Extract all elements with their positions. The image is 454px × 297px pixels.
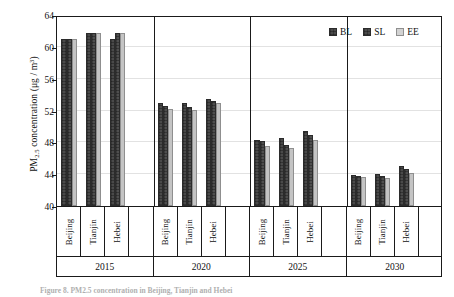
bar-sl-beijing-2030	[356, 176, 361, 206]
group-separator	[347, 17, 348, 206]
category-label: Hebei	[305, 221, 315, 243]
legend-swatch-bl-icon	[329, 28, 337, 36]
bar-sl-beijing-2020	[163, 106, 168, 206]
bar-ee-tianjin-2015	[96, 33, 101, 206]
category-cell-beijing-2020: Beijing	[154, 207, 178, 256]
legend-swatch-sl-icon	[363, 28, 371, 36]
group-separator	[250, 17, 251, 206]
category-cell-spacer	[129, 207, 153, 256]
category-cell-spacer	[419, 207, 443, 256]
y-axis-tick-label: 44	[0, 170, 54, 180]
category-label: Tianjin	[184, 219, 194, 245]
legend-label: EE	[407, 27, 419, 37]
legend-swatch-ee-icon	[396, 28, 404, 36]
bar-sl-hebei-2030	[404, 169, 409, 206]
bar-bl-tianjin-2020	[182, 103, 187, 206]
bar-sl-hebei-2025	[308, 135, 313, 206]
bar-sl-hebei-2015	[115, 33, 120, 206]
category-cell-spacer	[322, 207, 346, 256]
plot-area: BLSLEE	[56, 16, 442, 207]
y-axis-tick-label: 48	[0, 138, 54, 148]
category-cell-hebei-2020: Hebei	[202, 207, 226, 256]
year-label-2020: 2020	[154, 257, 251, 276]
bar-ee-beijing-2020	[168, 109, 173, 206]
legend-item-ee: EE	[396, 27, 419, 37]
bar-ee-tianjin-2020	[192, 110, 197, 206]
y-axis-title-close: )	[29, 56, 39, 59]
category-axis-band: BeijingTianjinHebeiBeijingTianjinHebeiBe…	[56, 207, 442, 257]
figure-caption: Figure 8. PM2.5 concentration in Beijing…	[40, 286, 414, 295]
category-label: Beijing	[353, 218, 363, 245]
bar-bl-tianjin-2015	[86, 33, 91, 206]
legend: BLSLEE	[329, 27, 419, 37]
bar-ee-beijing-2030	[361, 177, 366, 206]
category-cell-tianjin-2015: Tianjin	[81, 207, 105, 256]
bar-bl-tianjin-2030	[375, 174, 380, 206]
legend-label: SL	[374, 27, 385, 37]
category-cell-hebei-2025: Hebei	[298, 207, 322, 256]
y-axis-tick-label: 60	[0, 43, 54, 53]
y-axis-tick-label: 40	[0, 202, 54, 212]
legend-item-sl: SL	[363, 27, 385, 37]
bar-sl-tianjin-2025	[284, 145, 289, 206]
category-label: Tianjin	[281, 219, 291, 245]
y-axis-title-superscript: 3	[28, 59, 35, 62]
bar-sl-beijing-2015	[67, 39, 72, 206]
bar-ee-beijing-2015	[72, 39, 77, 206]
bar-sl-hebei-2020	[211, 101, 216, 206]
legend-item-bl: BL	[329, 27, 352, 37]
y-axis-tick-label: 64	[0, 11, 54, 21]
bar-bl-hebei-2015	[110, 39, 115, 206]
year-axis-band: 2015202020252030	[56, 257, 442, 277]
category-label: Hebei	[112, 221, 122, 243]
bar-bl-beijing-2025	[254, 140, 259, 206]
bar-ee-hebei-2030	[409, 173, 414, 206]
bar-bl-hebei-2020	[206, 99, 211, 206]
bar-ee-tianjin-2025	[289, 148, 294, 206]
category-cell-tianjin-2025: Tianjin	[274, 207, 298, 256]
bar-sl-beijing-2025	[260, 141, 265, 206]
legend-label: BL	[340, 27, 352, 37]
category-label: Beijing	[64, 218, 74, 245]
bar-bl-tianjin-2025	[279, 138, 284, 206]
bar-ee-hebei-2015	[120, 33, 125, 206]
category-label: Beijing	[257, 218, 267, 245]
bar-ee-hebei-2025	[313, 140, 318, 206]
year-label-2025: 2025	[250, 257, 347, 276]
bar-bl-hebei-2025	[303, 131, 308, 206]
bar-sl-tianjin-2020	[187, 107, 192, 206]
year-label-2015: 2015	[57, 257, 154, 276]
category-label: Hebei	[401, 221, 411, 243]
category-label: Beijing	[160, 218, 170, 245]
bar-bl-beijing-2030	[351, 175, 356, 206]
category-cell-hebei-2015: Hebei	[105, 207, 129, 256]
bar-ee-hebei-2020	[216, 103, 221, 206]
bar-bl-hebei-2030	[399, 166, 404, 206]
category-cell-tianjin-2030: Tianjin	[371, 207, 395, 256]
bar-ee-beijing-2025	[265, 146, 270, 206]
category-label: Tianjin	[88, 219, 98, 245]
bar-sl-tianjin-2015	[91, 33, 96, 206]
y-axis-title-subscript: 2.5	[33, 149, 40, 158]
category-label: Tianjin	[377, 219, 387, 245]
group-separator	[154, 17, 155, 206]
category-cell-beijing-2030: Beijing	[347, 207, 371, 256]
category-label: Hebei	[208, 221, 218, 243]
year-label-2030: 2030	[347, 257, 444, 276]
bar-bl-beijing-2020	[158, 103, 163, 206]
y-axis-tick-label: 56	[0, 75, 54, 85]
category-cell-beijing-2015: Beijing	[57, 207, 81, 256]
category-cell-tianjin-2020: Tianjin	[178, 207, 202, 256]
bar-sl-tianjin-2030	[380, 176, 385, 206]
figure-pm25-bar-chart: PM2.5 concentration (μg / m3) 4044485256…	[0, 0, 454, 297]
y-axis-tick-label: 52	[0, 107, 54, 117]
bar-bl-beijing-2015	[61, 39, 66, 206]
category-cell-beijing-2025: Beijing	[250, 207, 274, 256]
bar-ee-tianjin-2030	[385, 178, 390, 206]
category-cell-spacer	[226, 207, 250, 256]
category-cell-hebei-2030: Hebei	[395, 207, 419, 256]
